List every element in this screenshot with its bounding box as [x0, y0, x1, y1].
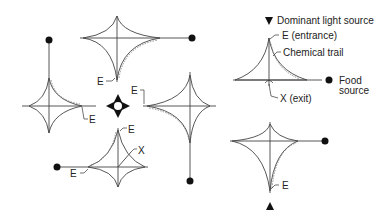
food-source-label-line2: source [339, 85, 369, 96]
entrance-label: E [128, 124, 135, 135]
entrance-label: E [131, 85, 138, 96]
food-source-dot [322, 138, 329, 145]
exit-label: X (exit) [280, 93, 312, 104]
entrance-label: E [70, 168, 77, 179]
light-source-arrow-icon [265, 17, 273, 25]
light-source-label: Dominant light source [277, 15, 374, 26]
legend-diagram: Dominant light source E (entrance) Chemi… [233, 15, 374, 104]
star-bottom-right: E [230, 122, 329, 210]
entrance-label: E [89, 114, 96, 125]
compass-icon [106, 94, 130, 118]
food-source-dot [189, 35, 196, 42]
star-bottom: E X E [54, 124, 149, 187]
light-source-arrow-icon [266, 202, 274, 210]
food-source-dot [46, 37, 53, 44]
exit-label: X [138, 145, 145, 156]
food-source-dot [326, 77, 333, 84]
chemical-trail-label: Chemical trail [283, 47, 344, 58]
ant-nest-orientation-diagram: E E E E X E [0, 0, 386, 219]
star-top: E [80, 16, 196, 87]
food-source-dot [54, 164, 61, 171]
entrance-label: E (entrance) [282, 30, 337, 41]
entrance-label: E [282, 180, 289, 191]
entrance-label: E [97, 76, 104, 87]
food-source-dot [187, 178, 194, 185]
star-left: E [22, 37, 96, 134]
